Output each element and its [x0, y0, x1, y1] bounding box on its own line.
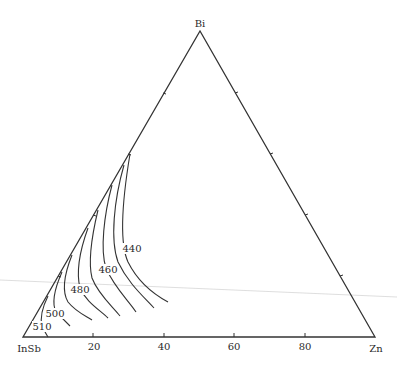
vertex-label-bi: Bi [195, 18, 206, 29]
isotherm-430 [123, 154, 168, 302]
diagram-canvas: Bi InSb Zn 20 40 60 80 440 460 480 500 5… [0, 0, 397, 374]
tick-label-60: 60 [228, 341, 241, 352]
isotherm-label-510: 510 [32, 321, 51, 332]
isotherm-label-480: 480 [70, 284, 89, 295]
vertex-label-zn: Zn [369, 343, 383, 354]
isotherm-label-500: 500 [45, 308, 64, 319]
ternary-diagram: Bi InSb Zn 20 40 60 80 440 460 480 500 5… [0, 0, 397, 374]
vertex-label-insb: InSb [17, 343, 41, 354]
isotherm-label-460: 460 [98, 264, 117, 275]
tick-label-80: 80 [299, 341, 312, 352]
isotherm-label-440: 440 [122, 243, 141, 254]
scan-artifact-line [0, 280, 397, 297]
tick-label-40: 40 [158, 341, 171, 352]
tick-label-20: 20 [88, 341, 101, 352]
